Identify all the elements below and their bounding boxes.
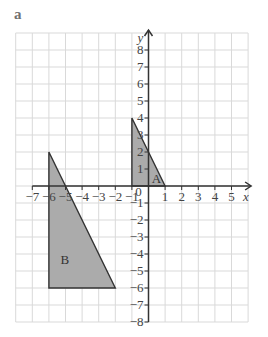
x-axis-name: x — [242, 189, 249, 204]
y-tick-label: −8 — [130, 314, 144, 329]
y-tick-label: −2 — [130, 212, 144, 227]
x-tick-label: −2 — [108, 189, 122, 204]
x-tick-label: 3 — [195, 189, 202, 204]
coordinate-grid: AB−7−6−5−4−3−2−11234587654321−1−2−3−4−5−… — [0, 0, 268, 337]
y-tick-label: 1 — [137, 161, 144, 176]
y-tick-label: 6 — [137, 76, 144, 91]
y-tick-label: 5 — [137, 93, 144, 108]
y-tick-label: −4 — [130, 246, 144, 261]
shape-label-a: A — [152, 171, 162, 186]
y-tick-label: 2 — [137, 144, 144, 159]
x-tick-label: 5 — [228, 189, 235, 204]
y-tick-label: −3 — [130, 229, 144, 244]
x-tick-label: −5 — [59, 189, 73, 204]
origin-label: 0 — [135, 184, 142, 199]
x-tick-label: −7 — [25, 189, 39, 204]
y-tick-label: 4 — [137, 110, 144, 125]
y-tick-label: −7 — [130, 297, 144, 312]
y-tick-label: 7 — [137, 59, 144, 74]
y-tick-label: −5 — [130, 263, 144, 278]
x-tick-label: −4 — [75, 189, 89, 204]
x-tick-label: −6 — [42, 189, 56, 204]
x-tick-label: 4 — [212, 189, 219, 204]
y-tick-label: 3 — [137, 127, 144, 142]
shape-label-b: B — [61, 252, 70, 267]
x-tick-label: −3 — [92, 189, 106, 204]
x-tick-label: 2 — [178, 189, 185, 204]
x-tick-label: 1 — [162, 189, 169, 204]
y-axis-name: y — [136, 30, 144, 45]
y-tick-label: −6 — [130, 280, 144, 295]
